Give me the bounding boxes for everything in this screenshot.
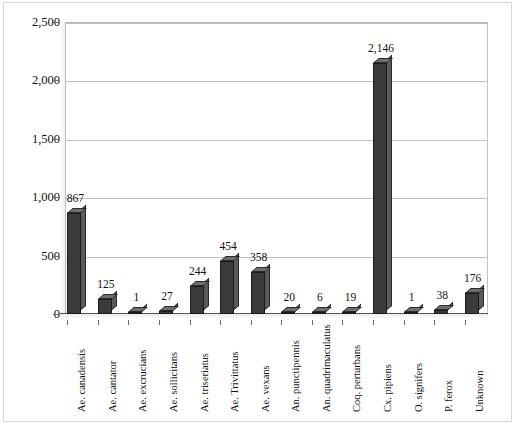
- bar[interactable]: [404, 312, 418, 314]
- bar-value-label: 19: [345, 292, 357, 303]
- y-axis-tick-mark: [53, 256, 60, 257]
- bar[interactable]: [312, 312, 326, 314]
- x-axis-tick-mark: [251, 320, 252, 325]
- bar[interactable]: [67, 213, 81, 314]
- bar-slot: 38: [427, 22, 458, 314]
- bar[interactable]: [98, 299, 112, 314]
- x-axis-tick-label: Ae. cantator: [108, 361, 118, 412]
- bar-value-label: 20: [284, 292, 296, 303]
- bar-value-label: 358: [250, 252, 267, 263]
- x-axis-tick-mark: [465, 320, 466, 325]
- bar-value-label: 1: [134, 292, 140, 303]
- bar-slot: 27: [152, 22, 183, 314]
- bar-front-face: [190, 286, 204, 314]
- x-axis-tick-label: Ae. Trivittatus: [230, 351, 240, 412]
- bar-front-face: [67, 213, 81, 314]
- x-axis-tick-label: Ae. vexans: [261, 365, 271, 412]
- bar-slot: 244: [182, 22, 213, 314]
- x-axis-tick-mark: [373, 320, 374, 325]
- y-axis-tick-label: 0: [6, 308, 60, 320]
- bar-value-label: 125: [97, 279, 114, 290]
- bar-value-label: 1: [409, 292, 415, 303]
- bar-top-face: [434, 305, 454, 310]
- x-axis-tick-mark: [159, 320, 160, 325]
- y-axis-tick-mark: [53, 139, 60, 140]
- bar[interactable]: [128, 312, 142, 314]
- bar-value-label: 454: [220, 241, 237, 252]
- x-axis-tick-mark: [128, 320, 129, 325]
- y-axis-tick-label: 1,500: [6, 133, 60, 145]
- bar[interactable]: [465, 293, 479, 314]
- bar-value-label: 2,146: [368, 43, 394, 54]
- bar-side-face: [387, 55, 392, 310]
- bar[interactable]: [434, 310, 448, 314]
- x-axis-tick-label: Ae. sollicitans: [169, 352, 179, 412]
- x-axis: Ae. canadensisAe. cantatorAe. excrucians…: [60, 320, 488, 420]
- y-axis-tick-label: 500: [6, 250, 60, 262]
- x-axis-tick-mark: [404, 320, 405, 325]
- y-axis-tick-mark: [53, 22, 60, 23]
- x-axis-tick-label: An. punctipennis: [291, 340, 301, 412]
- bar-slot: 358: [243, 22, 274, 314]
- bar-front-face: [312, 312, 326, 314]
- bar-value-label: 867: [67, 193, 84, 204]
- bar-chart-figure: 05001,0001,5002,0002,500 867125127244454…: [0, 0, 518, 426]
- bar[interactable]: [190, 286, 204, 314]
- x-axis-tick-label: P. ferox: [444, 380, 454, 412]
- bar-slot: 6: [305, 22, 336, 314]
- bar-front-face: [342, 312, 356, 314]
- y-axis-tick-label: 2,000: [6, 74, 60, 86]
- bar[interactable]: [342, 312, 356, 314]
- bar-side-face: [81, 205, 86, 310]
- y-axis: 05001,0001,5002,0002,500: [0, 22, 60, 314]
- bar-slot: 19: [335, 22, 366, 314]
- bar-front-face: [98, 299, 112, 314]
- bar-front-face: [159, 311, 173, 314]
- bar[interactable]: [159, 311, 173, 314]
- bar-front-face: [251, 272, 265, 314]
- bar[interactable]: [220, 261, 234, 314]
- bar-value-label: 27: [161, 291, 173, 302]
- bar-top-face: [159, 306, 179, 311]
- bar-front-face: [281, 312, 295, 314]
- bar-slot: 20: [274, 22, 305, 314]
- bar-top-face: [128, 307, 148, 312]
- y-axis-tick-mark: [53, 314, 60, 315]
- bar-front-face: [404, 312, 418, 314]
- bar-top-face: [281, 307, 301, 312]
- bar-slot: 454: [213, 22, 244, 314]
- x-axis-tick-label: Cx. pipiens: [383, 364, 393, 412]
- bar[interactable]: [251, 272, 265, 314]
- x-axis-tick-label: An. quadrimaculatus: [322, 325, 332, 412]
- x-axis-tick-mark: [312, 320, 313, 325]
- bar-slot: 2,146: [366, 22, 397, 314]
- bar-value-label: 244: [189, 266, 206, 277]
- x-axis-tick-mark: [220, 320, 221, 325]
- bar-series: 867125127244454358206192,146138176: [60, 22, 488, 314]
- bar-slot: 867: [60, 22, 91, 314]
- x-axis-tick-mark: [190, 320, 191, 325]
- bar-front-face: [220, 261, 234, 314]
- y-axis-tick-mark: [53, 197, 60, 198]
- x-axis-tick-label: Coq. perturbans: [352, 345, 362, 412]
- x-axis-floor: [60, 313, 488, 320]
- bar[interactable]: [373, 63, 387, 314]
- bar-value-label: 6: [317, 292, 323, 303]
- bar-value-label: 38: [436, 290, 448, 301]
- bar-value-label: 176: [464, 273, 481, 284]
- y-axis-tick-mark: [53, 80, 60, 81]
- bar-slot: 1: [121, 22, 152, 314]
- y-axis-tick-label: 1,000: [6, 191, 60, 203]
- bar-slot: 176: [457, 22, 488, 314]
- bar-top-face: [404, 307, 424, 312]
- bar[interactable]: [281, 312, 295, 314]
- bar-front-face: [465, 293, 479, 314]
- bar-top-face: [342, 307, 362, 312]
- x-axis-tick-mark: [98, 320, 99, 325]
- x-axis-tick-label: Ae. triseriatus: [200, 353, 210, 412]
- x-axis-tick-mark: [434, 320, 435, 325]
- bar-front-face: [434, 310, 448, 314]
- bar-slot: 1: [396, 22, 427, 314]
- bar-side-face: [234, 253, 239, 310]
- x-axis-tick-label: Unknown: [475, 371, 485, 412]
